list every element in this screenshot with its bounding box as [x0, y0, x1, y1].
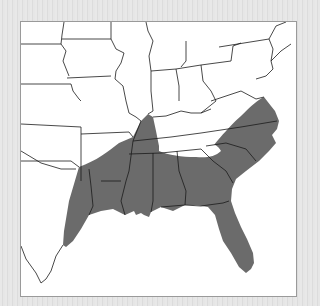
range-shaded-area — [63, 97, 279, 273]
range-map — [21, 22, 297, 297]
map-frame — [20, 21, 297, 297]
